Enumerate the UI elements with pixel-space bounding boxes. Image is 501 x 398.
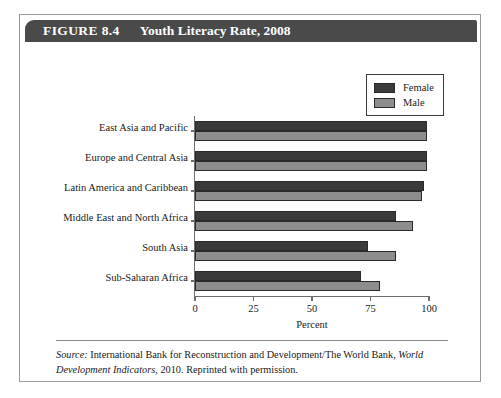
x-axis-tick (311, 296, 313, 301)
bar-female (195, 121, 427, 131)
category-label: Latin America and Caribbean (0, 182, 188, 193)
bar-male (195, 131, 427, 141)
plot-area: Percent East Asia and PacificEurope and … (194, 116, 429, 297)
source-body-after: , 2010. Reprinted with permission. (155, 364, 298, 375)
legend-swatch-male (374, 98, 395, 108)
x-axis-tick-label: 0 (192, 303, 197, 314)
x-axis-tick-label: 50 (307, 303, 318, 314)
legend-label-female: Female (403, 82, 434, 93)
x-axis-tick (194, 296, 196, 301)
figure-title-band: FIGURE 8.4 Youth Literacy Rate, 2008 (25, 20, 477, 42)
bar-group: Middle East and North Africa (195, 206, 429, 236)
x-axis-tick-label: 25 (248, 303, 259, 314)
figure-title-text: Youth Literacy Rate, 2008 (140, 23, 291, 39)
bar-female (195, 151, 427, 161)
x-axis-tick (253, 296, 255, 301)
x-axis-tick (428, 296, 430, 301)
figure-card: FIGURE 8.4 Youth Literacy Rate, 2008 Fem… (19, 14, 481, 382)
category-label: Sub-Saharan Africa (0, 272, 188, 283)
bar-group: East Asia and Pacific (195, 116, 429, 146)
category-label: South Asia (0, 242, 188, 253)
category-label: Europe and Central Asia (0, 152, 188, 163)
legend-label-male: Male (403, 97, 425, 108)
figure-number-label: FIGURE 8.4 (43, 23, 120, 39)
bar-female (195, 241, 368, 251)
x-axis-title: Percent (296, 319, 328, 330)
bar-group: Latin America and Caribbean (195, 176, 429, 206)
source-body-before: International Bank for Reconstruction an… (88, 349, 399, 360)
x-axis-tick (370, 296, 372, 301)
category-label: East Asia and Pacific (0, 122, 188, 133)
bar-female (195, 211, 396, 221)
legend-swatch-female (374, 83, 395, 93)
bar-male (195, 281, 380, 291)
bar-male (195, 191, 422, 201)
source-prefix: Source: (56, 349, 88, 360)
chart-legend: Female Male (366, 74, 444, 116)
bar-female (195, 181, 424, 191)
source-divider (56, 340, 448, 341)
legend-item-male: Male (374, 95, 434, 110)
source-note: Source: International Bank for Reconstru… (56, 347, 452, 377)
bar-male (195, 251, 396, 261)
bar-group: Sub-Saharan Africa (195, 266, 429, 296)
legend-item-female: Female (374, 80, 434, 95)
x-axis-tick-label: 75 (365, 303, 376, 314)
category-label: Middle East and North Africa (0, 212, 188, 223)
chart-area: Female Male Percent East Asia and Pacifi… (25, 42, 477, 330)
bar-group: South Asia (195, 236, 429, 266)
bar-male (195, 161, 427, 171)
x-axis-tick-label: 100 (421, 303, 437, 314)
bar-group: Europe and Central Asia (195, 146, 429, 176)
bar-female (195, 271, 361, 281)
bar-male (195, 221, 413, 231)
